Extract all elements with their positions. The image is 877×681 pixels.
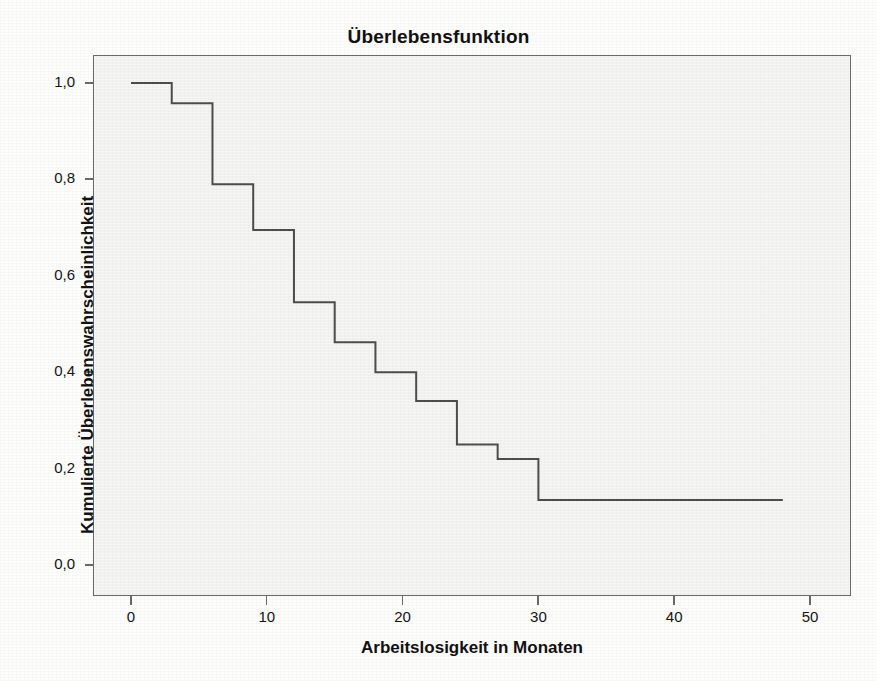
y-tick-mark xyxy=(85,82,93,84)
x-tick-label: 30 xyxy=(518,608,558,625)
x-tick-mark xyxy=(402,596,404,605)
x-tick-mark xyxy=(809,596,811,605)
y-tick-label: 0,8 xyxy=(15,169,75,186)
x-tick-mark xyxy=(537,596,539,605)
y-tick-label: 1,0 xyxy=(15,73,75,90)
y-tick-label: 0,2 xyxy=(15,459,75,476)
chart-title: Überlebensfunktion xyxy=(0,26,877,48)
survival-line xyxy=(131,83,783,500)
x-axis-label: Arbeitslosigkeit in Monaten xyxy=(93,638,851,658)
x-tick-mark xyxy=(673,596,675,605)
x-tick-label: 40 xyxy=(654,608,694,625)
x-tick-mark xyxy=(130,596,132,605)
x-tick-label: 10 xyxy=(247,608,287,625)
x-tick-mark xyxy=(266,596,268,605)
x-tick-label: 20 xyxy=(383,608,423,625)
x-tick-label: 0 xyxy=(111,608,151,625)
y-tick-label: 0,0 xyxy=(15,555,75,572)
survival-step-curve xyxy=(93,55,851,596)
survival-chart-figure: Überlebensfunktion 1,00,80,60,40,20,0 01… xyxy=(0,0,877,681)
y-tick-label: 0,6 xyxy=(15,266,75,283)
y-tick-label: 0,4 xyxy=(15,362,75,379)
y-axis-label: Kumulierte Überlebenswahrscheinlichkeit xyxy=(78,105,98,625)
x-tick-label: 50 xyxy=(790,608,830,625)
